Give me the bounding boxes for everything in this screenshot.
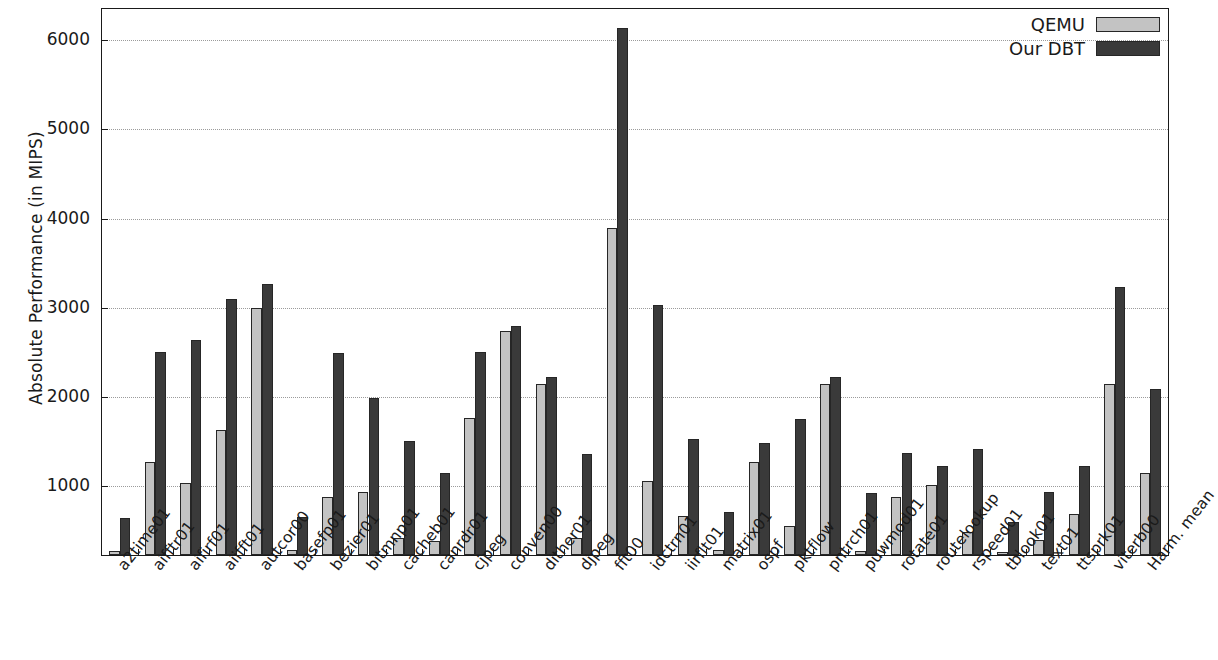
bar-fft00-our-dbt <box>617 28 628 555</box>
bar-tblook01-qemu <box>997 552 1008 555</box>
bar-aiifft01-our-dbt <box>226 299 237 555</box>
y-axis-tick-label: 1000 <box>10 475 90 495</box>
y-axis-tick-label: 6000 <box>10 29 90 49</box>
bar-pktflow-qemu <box>784 526 795 555</box>
bar-pktflow-our-dbt <box>795 419 806 556</box>
bar-autcor00-qemu <box>251 308 262 555</box>
y-axis-tick-label: 4000 <box>10 208 90 228</box>
legend-swatch-our-dbt-icon <box>1096 41 1160 56</box>
legend-swatch-qemu-icon <box>1096 17 1160 32</box>
chart-legend: QEMU Our DBT <box>1001 10 1166 63</box>
bar-ospf-our-dbt <box>759 443 770 555</box>
legend-entry-qemu: QEMU <box>1009 12 1160 36</box>
y-axis-tick-label: 5000 <box>10 118 90 138</box>
bar-djpeg-our-dbt <box>582 454 593 555</box>
bar-fft00-qemu <box>607 228 618 555</box>
bar-aifirf01-our-dbt <box>191 340 202 555</box>
bar-matrix01-qemu <box>713 550 724 555</box>
legend-label-our-dbt: Our DBT <box>1009 38 1085 59</box>
bar-autcor00-our-dbt <box>262 284 273 555</box>
legend-label-qemu: QEMU <box>1031 14 1085 35</box>
bar-puwmod01-qemu <box>855 551 866 555</box>
bar-cacheb01-our-dbt <box>404 441 415 555</box>
bars-layer <box>102 9 1168 555</box>
y-axis-tick-label: 2000 <box>10 386 90 406</box>
bar-idctrn01-our-dbt <box>653 305 664 555</box>
bar-conven00-qemu <box>500 331 511 555</box>
y-axis-tick-label: 3000 <box>10 297 90 317</box>
bar-a2time01-qemu <box>109 551 120 555</box>
bar-iirflt01-our-dbt <box>688 439 699 555</box>
legend-entry-our-dbt: Our DBT <box>1009 36 1160 60</box>
plot-area: 100020003000400050006000 <box>101 8 1169 556</box>
bar-conven00-our-dbt <box>511 326 522 555</box>
